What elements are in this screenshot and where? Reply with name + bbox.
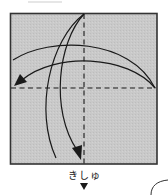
marker-label: きしゅ bbox=[66, 170, 102, 182]
cropped-heading-remnant bbox=[28, 1, 62, 3]
step-number-circle-partial bbox=[151, 180, 168, 195]
origami-diagram bbox=[0, 0, 168, 195]
paper-square bbox=[11, 14, 158, 165]
marker-down-triangle-icon bbox=[80, 183, 88, 190]
